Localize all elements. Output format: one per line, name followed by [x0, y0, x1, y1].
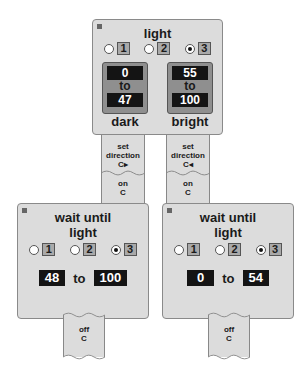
to-label: to — [172, 80, 208, 93]
block-title: wait until — [163, 210, 293, 225]
port-label: 3 — [269, 243, 282, 256]
tab-text: set — [167, 142, 209, 151]
wave-divider-icon — [208, 311, 250, 319]
tab-text: C — [167, 188, 209, 197]
port-option-1[interactable]: 1 — [29, 243, 55, 256]
tab-text: set — [102, 142, 144, 151]
set-direction-block-left[interactable]: set direction C▸ — [101, 135, 145, 173]
radio-selected-icon[interactable] — [185, 44, 195, 54]
port-label: 3 — [124, 243, 137, 256]
block-subtitle: light — [18, 225, 148, 240]
port-label: 1 — [42, 243, 55, 256]
radio-icon[interactable] — [215, 245, 225, 255]
wait-until-light-block-right[interactable]: wait until light 1 2 3 0 to 54 — [162, 203, 294, 319]
tab-text: off — [209, 325, 249, 334]
bright-to-value[interactable]: 100 — [172, 93, 208, 107]
port-option-3[interactable]: 3 — [185, 42, 211, 55]
bright-from-value[interactable]: 55 — [172, 66, 208, 80]
radio-icon[interactable] — [70, 245, 80, 255]
dark-range: 0 to 47 — [102, 62, 148, 114]
tab-text: direction — [102, 151, 144, 160]
port-option-3[interactable]: 3 — [256, 243, 282, 256]
to-label: to — [73, 272, 85, 285]
to-label: to — [107, 80, 143, 93]
port-option-2[interactable]: 2 — [70, 243, 96, 256]
tab-text: C — [64, 334, 104, 343]
port-label: 1 — [187, 243, 200, 256]
port-option-1[interactable]: 1 — [104, 42, 130, 55]
light-sensor-block[interactable]: light 1 2 3 0 to 47 55 to 100 dark brigh… — [92, 19, 223, 135]
radio-selected-icon[interactable] — [256, 245, 266, 255]
radio-selected-icon[interactable] — [111, 245, 121, 255]
direction-right-label: C▸ — [102, 160, 144, 169]
to-label: to — [222, 272, 234, 285]
port-label: 1 — [117, 42, 130, 55]
wait-until-light-block-left[interactable]: wait until light 1 2 3 48 to 100 — [17, 203, 149, 319]
from-value[interactable]: 48 — [39, 270, 65, 286]
port-label: 2 — [83, 243, 96, 256]
motor-on-block-left[interactable]: on C — [101, 173, 145, 205]
wave-divider-icon — [208, 353, 250, 361]
tab-text: on — [102, 179, 144, 188]
wave-divider-icon — [101, 169, 145, 177]
set-direction-block-right[interactable]: set direction C◂ — [166, 135, 210, 173]
port-label: 2 — [157, 42, 170, 55]
port-option-2[interactable]: 2 — [215, 243, 241, 256]
radio-icon[interactable] — [144, 44, 154, 54]
block-subtitle: light — [163, 225, 293, 240]
port-label: 2 — [228, 243, 241, 256]
tab-text: C — [102, 188, 144, 197]
radio-icon[interactable] — [29, 245, 39, 255]
tab-text: C — [209, 334, 249, 343]
motor-off-block-right[interactable]: off C — [208, 315, 250, 357]
port-option-2[interactable]: 2 — [144, 42, 170, 55]
motor-on-block-right[interactable]: on C — [166, 173, 210, 205]
direction-left-label: C◂ — [167, 160, 209, 169]
block-title: wait until — [18, 210, 148, 225]
radio-icon[interactable] — [104, 44, 114, 54]
wave-divider-icon — [166, 169, 210, 177]
tab-text: on — [167, 179, 209, 188]
bright-range: 55 to 100 — [167, 62, 213, 114]
dark-to-value[interactable]: 47 — [107, 93, 143, 107]
port-label: 3 — [198, 42, 211, 55]
block-title: light — [93, 26, 222, 41]
tab-text: off — [64, 325, 104, 334]
dark-from-value[interactable]: 0 — [107, 66, 143, 80]
radio-icon[interactable] — [174, 245, 184, 255]
port-option-3[interactable]: 3 — [111, 243, 137, 256]
wave-divider-icon — [63, 353, 105, 361]
tab-text: direction — [167, 151, 209, 160]
from-value[interactable]: 0 — [187, 270, 214, 286]
to-value[interactable]: 54 — [243, 270, 269, 286]
motor-off-block-left[interactable]: off C — [63, 315, 105, 357]
port-option-1[interactable]: 1 — [174, 243, 200, 256]
bright-label: bright — [161, 114, 219, 129]
dark-label: dark — [99, 114, 151, 129]
to-value[interactable]: 100 — [94, 270, 128, 286]
wave-divider-icon — [63, 311, 105, 319]
